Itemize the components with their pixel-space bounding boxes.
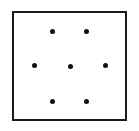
dot-top-left [50,29,55,34]
dot-middle-right [103,63,108,68]
dot-top-right [84,29,89,34]
dot-middle-center [68,64,73,69]
dot-middle-left [32,63,37,68]
dot-bottom-right [84,99,89,104]
figure-canvas [0,0,139,131]
dot-bottom-left [50,99,55,104]
